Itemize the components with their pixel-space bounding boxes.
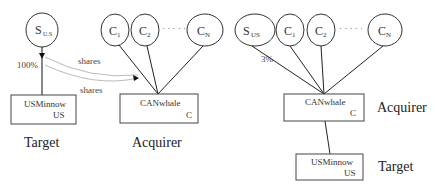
- acquirer-box-right: CANwhale C: [284, 94, 364, 121]
- svg-text:US: US: [251, 31, 260, 39]
- svg-text:1: 1: [117, 31, 121, 39]
- canadian-node-n-right: C N: [368, 14, 402, 46]
- ellipsis: · · · · ·: [162, 23, 186, 33]
- acquirer-box-left: CANwhale C: [120, 94, 198, 123]
- left-diagram: S U.S 100% shares shares C 1 C 2 · · · ·…: [11, 13, 223, 150]
- svg-text:C: C: [197, 24, 205, 38]
- canadian-node-1: C 1: [101, 14, 129, 46]
- svg-text:1: 1: [292, 31, 296, 39]
- svg-text:US: US: [344, 168, 356, 178]
- svg-text:2: 2: [323, 31, 327, 39]
- canadian-node-2-right: C 2: [307, 14, 335, 46]
- canadian-node-1-right: C 1: [276, 14, 304, 46]
- target-label-left: Target: [24, 135, 59, 150]
- svg-text:C: C: [139, 24, 147, 38]
- target-box-left: USMinnow US: [11, 95, 76, 124]
- right-diagram: S US C 1 C 2 · · · · · C N 3% CANwhale: [235, 14, 427, 180]
- svg-text:C: C: [378, 24, 386, 38]
- svg-text:CANwhale: CANwhale: [305, 97, 346, 107]
- ownership-label-right: 3%: [261, 54, 274, 64]
- shares-arrowhead: [133, 75, 139, 81]
- target-name: USMinnow: [24, 99, 67, 109]
- svg-text:C: C: [109, 24, 117, 38]
- us-shareholder-node-right: S US: [235, 14, 275, 46]
- svg-text:2: 2: [147, 31, 151, 39]
- node-main: S: [35, 23, 42, 37]
- svg-text:C: C: [315, 24, 323, 38]
- target-country: US: [53, 110, 65, 120]
- us-shareholder-node: S U.S: [26, 13, 58, 47]
- acquirer-label-right: Acquirer: [377, 100, 427, 115]
- target-label-right: Target: [378, 159, 413, 174]
- shares-label-top: shares: [78, 56, 101, 66]
- canadian-node-2: C 2: [131, 14, 159, 46]
- shares-label-bottom: shares: [80, 85, 103, 95]
- svg-text:USMinnow: USMinnow: [311, 157, 354, 167]
- target-box-right: USMinnow US: [296, 154, 363, 180]
- svg-text:N: N: [386, 31, 391, 39]
- node-sub: U.S: [43, 31, 52, 37]
- acquirer-label-left: Acquirer: [132, 135, 182, 150]
- acquirer-name: CANwhale: [140, 98, 181, 108]
- ellipsis-right: · · · · ·: [339, 23, 363, 33]
- canadian-node-n: C N: [187, 14, 223, 46]
- svg-text:C: C: [284, 24, 292, 38]
- ownership-label: 100%: [17, 60, 39, 70]
- svg-text:C: C: [350, 108, 356, 118]
- diagram-canvas: S U.S 100% shares shares C 1 C 2 · · · ·…: [0, 0, 435, 188]
- acquirer-country: C: [186, 110, 192, 120]
- svg-text:N: N: [205, 31, 210, 39]
- svg-text:S: S: [243, 24, 250, 38]
